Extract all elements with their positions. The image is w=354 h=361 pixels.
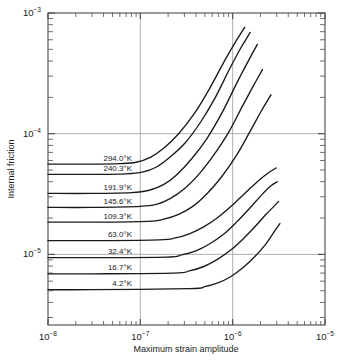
- curve-label-7: 16.7°K: [108, 263, 133, 272]
- curve-label-6: 32.4°K: [108, 247, 133, 256]
- curve-label-1: 240.3°K: [103, 164, 132, 173]
- curve-label-8: 4.2°K: [112, 279, 132, 288]
- y-axis-label: Internal friction: [6, 139, 16, 198]
- curve-label-3: 145.6°K: [103, 197, 132, 206]
- curve-label-5: 63.0°K: [108, 230, 133, 239]
- chart-svg: 294.0°K240.3°K191.9°K145.6°K109.3°K63.0°…: [0, 0, 354, 361]
- chart-background: [0, 0, 354, 361]
- internal-friction-chart: 294.0°K240.3°K191.9°K145.6°K109.3°K63.0°…: [0, 0, 354, 361]
- curve-label-0: 294.0°K: [103, 154, 132, 163]
- x-axis-label: Maximum strain amplitude: [133, 344, 238, 354]
- curve-label-2: 191.9°K: [103, 183, 132, 192]
- curve-label-4: 109.3°K: [103, 212, 132, 221]
